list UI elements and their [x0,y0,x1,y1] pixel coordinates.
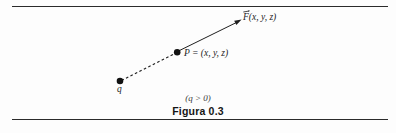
point-label: P = (x, y, z) [184,49,228,59]
figure-container: F(x, y, z) P = (x, y, z) q (q > 0) Figur… [0,0,396,133]
charge-sign-note: (q > 0) [0,94,396,103]
arrowhead-icon [234,20,241,25]
field-point-dot [174,49,181,56]
figure-caption: Figura 0.3 [0,105,396,117]
solid-segment-p-to-arrow [179,22,239,52]
dashed-segment-q-to-p [122,53,177,81]
field-vector-label: F(x, y, z) [243,13,276,23]
